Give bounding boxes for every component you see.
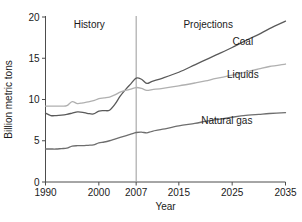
series-label-natural-gas: Natural gas — [201, 115, 252, 126]
x-axis-title: Year — [155, 201, 176, 212]
y-tick-label: 20 — [28, 12, 40, 23]
series-label-liquids: Liquids — [227, 69, 259, 80]
x-tick-label: 2025 — [221, 187, 244, 198]
y-axis-title: Billion metric tons — [3, 60, 14, 138]
x-tick-label: 2007 — [125, 187, 148, 198]
line-chart: 05101520 199020002007201520252035 CoalLi… — [0, 0, 302, 222]
y-tick-label: 5 — [34, 135, 40, 146]
series-label-coal: Coal — [233, 36, 254, 47]
x-tick-label: 2000 — [88, 187, 111, 198]
x-tick-label: 2015 — [168, 187, 191, 198]
annotation-history: History — [74, 19, 105, 30]
chart-container: 05101520 199020002007201520252035 CoalLi… — [0, 0, 302, 222]
y-tick-label: 15 — [28, 53, 40, 64]
y-tick-label: 10 — [28, 94, 40, 105]
x-tick-label: 2035 — [274, 187, 297, 198]
x-tick-label: 1990 — [34, 187, 57, 198]
annotation-projections: Projections — [183, 19, 232, 30]
y-tick-label: 0 — [34, 177, 40, 188]
